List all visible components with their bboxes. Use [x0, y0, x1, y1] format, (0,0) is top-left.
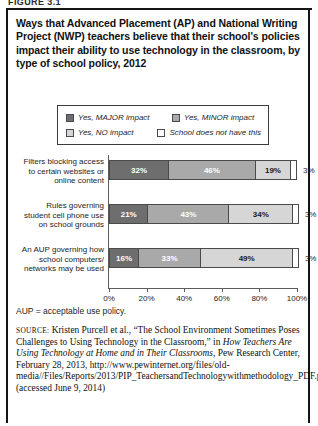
- bar-segment[interactable]: 21%: [109, 204, 148, 224]
- bar-segment[interactable]: 34%: [229, 204, 293, 224]
- x-axis-line: [108, 288, 297, 289]
- source-citation: SOURCE: Kristen Purcell et al., “The Sch…: [16, 325, 304, 395]
- page-title: Ways that Advanced Placement (AP) and Na…: [16, 17, 304, 71]
- x-axis-tick-label: 60%: [214, 294, 230, 303]
- x-axis-tick: [297, 288, 298, 292]
- x-axis-tick: [109, 288, 110, 292]
- bar-category-label: Rules governingstudent cell phone useon …: [12, 201, 104, 230]
- bar-segment[interactable]: [293, 204, 299, 224]
- bar-outside-value-label: 3%: [303, 166, 315, 175]
- legend-row: Yes, NO impact School does not have this: [66, 126, 261, 139]
- legend-item-major-impact[interactable]: Yes, MAJOR impact: [66, 113, 172, 122]
- x-axis-tick: [222, 288, 223, 292]
- bar-category-label-line: Rules governing: [12, 201, 104, 211]
- legend-label: School does not have this: [169, 128, 261, 137]
- bar-segment[interactable]: 33%: [139, 248, 201, 268]
- x-axis-tick-label: 100%: [287, 294, 307, 303]
- legend-swatch-major-icon: [66, 114, 74, 122]
- stacked-bar[interactable]: 16%33%49%: [109, 248, 299, 268]
- bar-segment[interactable]: 32%: [109, 160, 169, 180]
- legend-swatch-minor-icon: [172, 114, 180, 122]
- bar-category-label-line: Filters blocking access: [12, 157, 104, 167]
- bar-category-label-line: An AUP governing how: [12, 245, 104, 255]
- x-axis-tick-label: 40%: [176, 294, 192, 303]
- bar-category-label-line: student cell phone use: [12, 211, 104, 221]
- bar-segment[interactable]: [291, 160, 297, 180]
- bar-outside-value-label: 3%: [305, 254, 317, 263]
- bar-category-label-line: school computers/: [12, 255, 104, 265]
- stacked-bar[interactable]: 32%46%19%: [109, 160, 297, 180]
- figure-page: FIGURE 3.1 Ways that Advanced Placement …: [0, 0, 318, 426]
- legend-item-minor-impact[interactable]: Yes, MINOR impact: [172, 113, 254, 122]
- bar-segment[interactable]: 16%: [109, 248, 139, 268]
- legend-label: Yes, NO impact: [78, 128, 134, 137]
- legend-item-no-impact[interactable]: Yes, NO impact: [66, 128, 157, 137]
- bar-segment[interactable]: 49%: [201, 248, 293, 268]
- stacked-bar[interactable]: 21%43%34%: [109, 204, 299, 224]
- legend-swatch-not-have-icon: [157, 129, 165, 137]
- legend-row: Yes, MAJOR impact Yes, MINOR impact: [66, 111, 261, 124]
- legend-item-not-have-this[interactable]: School does not have this: [157, 128, 261, 137]
- bar-segment[interactable]: 46%: [169, 160, 255, 180]
- bar-segment[interactable]: 19%: [256, 160, 292, 180]
- bar-category-label-line: to certain websites or: [12, 167, 104, 177]
- footnote-aup: AUP = acceptable use policy.: [16, 306, 126, 316]
- bar-category-label-line: on school grounds: [12, 220, 104, 230]
- x-axis-tick: [147, 288, 148, 292]
- bar-category-label-line: networks may be used: [12, 264, 104, 274]
- x-axis-tick: [184, 288, 185, 292]
- x-axis-tick: [259, 288, 260, 292]
- bar-category-label: Filters blocking accessto certain websit…: [12, 157, 104, 186]
- bar-category-label: An AUP governing howschool computers/net…: [12, 245, 104, 274]
- x-axis-tick-label: 20%: [139, 294, 155, 303]
- bar-segment[interactable]: [293, 248, 299, 268]
- chart-legend: Yes, MAJOR impact Yes, MINOR impact Yes,…: [57, 105, 269, 145]
- x-axis-tick-label: 0%: [103, 294, 115, 303]
- bar-outside-value-label: 3%: [305, 210, 317, 219]
- bar-category-label-line: online content: [12, 176, 104, 186]
- legend-label: Yes, MINOR impact: [184, 113, 254, 122]
- legend-label: Yes, MAJOR impact: [78, 113, 150, 122]
- source-prefix: SOURCE:: [16, 326, 49, 335]
- legend-swatch-no-impact-icon: [66, 129, 74, 137]
- figure-number-label: FIGURE 3.1: [8, 0, 61, 6]
- stacked-bar-chart: 32%46%19%21%43%34%16%33%49% 0%20%40%60%8…: [0, 153, 318, 301]
- x-axis-tick-label: 80%: [251, 294, 267, 303]
- bar-segment[interactable]: 43%: [148, 204, 229, 224]
